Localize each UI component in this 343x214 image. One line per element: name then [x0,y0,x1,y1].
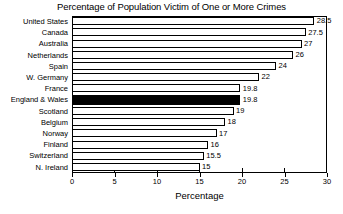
bar-value-label: 17 [219,129,227,139]
bar-row: 24 [72,61,327,72]
x-tick-label: 30 [323,177,331,187]
x-tick-label: 0 [70,177,74,187]
category-label-switzerland: Switzerland [0,151,70,161]
category-label-spain: Spain [0,62,70,72]
bar-value-label: 27.5 [308,28,323,38]
x-tick-label: 20 [238,177,246,187]
x-tick-label: 15 [195,177,203,187]
bar-row: 18 [72,117,327,128]
bar-value-label: 26 [296,50,304,60]
bar [72,118,225,126]
category-label-w-germany: W. Germany [0,73,70,83]
bar-row: 19.8 [72,95,327,106]
category-label-france: France [0,84,70,94]
category-axis-labels: United StatesCanadaAustraliaNetherlandsS… [0,16,70,173]
bar [72,51,293,59]
bar-row: 19.8 [72,83,327,94]
bar-value-label: 19.8 [243,84,258,94]
category-label-australia: Australia [0,39,70,49]
bar-value-label: 16 [211,140,219,150]
bar-row: 15.5 [72,151,327,162]
bar [72,107,234,115]
category-label-n-ireland: N. Ireland [0,163,70,173]
bar [72,129,217,137]
category-label-belgium: Belgium [0,118,70,128]
bar [72,17,314,25]
bar [72,40,302,48]
bar-row: 16 [72,139,327,150]
bar [72,62,276,70]
bar-highlighted [72,95,240,105]
bar-value-label: 24 [279,61,287,71]
bar-value-label: 27 [304,39,312,49]
bar [72,84,240,92]
bar [72,163,200,171]
category-label-netherlands: Netherlands [0,51,70,61]
x-tick-label: 25 [280,177,288,187]
category-label-england-wales: England & Wales [0,95,70,105]
bar-value-label: 19.8 [243,95,258,105]
bar-value-label: 18 [228,117,236,127]
bar-row: 19 [72,106,327,117]
category-label-united-states: United States [0,17,70,27]
bar-value-label: 28.5 [317,16,332,26]
x-tick-label: 5 [112,177,116,187]
bar [72,141,208,149]
bar [72,28,306,36]
chart-title: Percentage of Population Victim of One o… [0,1,343,13]
bar-chart: Percentage of Population Victim of One o… [0,0,343,214]
bar-row: 22 [72,72,327,83]
bar-row: 17 [72,128,327,139]
bar-value-label: 15 [202,162,210,172]
bar-value-label: 22 [262,72,270,82]
category-label-canada: Canada [0,28,70,38]
category-label-scotland: Scotland [0,107,70,117]
bar-row: 28.5 [72,16,327,27]
bar [72,73,259,81]
bar-value-label: 15.5 [206,151,221,161]
x-axis-title: Percentage [72,190,327,202]
bar-value-label: 19 [236,106,244,116]
x-tick-label: 10 [153,177,161,187]
bar [72,152,204,160]
bars-container: 28.527.52726242219.819.81918171615.515 [72,16,327,173]
bar-row: 27.5 [72,27,327,38]
category-label-norway: Norway [0,129,70,139]
bar-row: 26 [72,50,327,61]
category-label-finland: Finland [0,140,70,150]
bar-row: 27 [72,38,327,49]
bar-row: 15 [72,162,327,173]
